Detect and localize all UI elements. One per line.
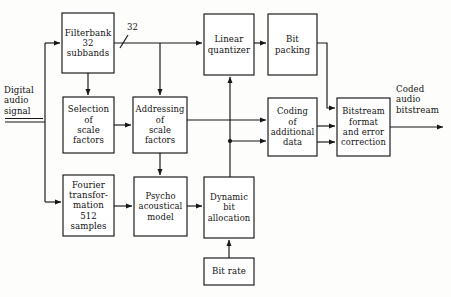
box-bit-rate[interactable] bbox=[204, 258, 254, 285]
box-addressing-of-scale-factors[interactable] bbox=[133, 97, 187, 153]
diagram-vector-layer bbox=[0, 0, 451, 297]
box-bit-packing[interactable] bbox=[268, 14, 317, 75]
block-diagram-canvas: Filterbank 32 subbands Selection of scal… bbox=[0, 0, 451, 297]
box-psycho-acoustical-model[interactable] bbox=[134, 177, 187, 236]
box-linear-quantizer[interactable] bbox=[204, 14, 254, 75]
connector-bitpacking-to-bitstream bbox=[317, 43, 335, 108]
box-coding-of-additional-data[interactable] bbox=[268, 98, 317, 156]
box-dynamic-bit-allocation[interactable] bbox=[204, 177, 254, 238]
node-rectangles bbox=[62, 13, 390, 285]
output-bitstream-label: Coded audio bitstream bbox=[396, 84, 439, 115]
box-filterbank[interactable] bbox=[62, 13, 114, 73]
bus-width-slash-icon bbox=[120, 35, 128, 48]
bus-width-label: 32 bbox=[127, 22, 138, 32]
input-signal-label: Digital audio signal bbox=[4, 85, 34, 116]
box-bitstream-format[interactable] bbox=[337, 98, 390, 156]
box-selection-of-scale-factors[interactable] bbox=[63, 97, 114, 153]
box-fourier-transformation[interactable] bbox=[63, 175, 114, 236]
